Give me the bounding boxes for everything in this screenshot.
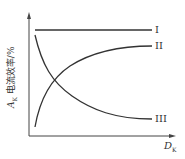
y-axis-label-main: A (6, 102, 16, 109)
y-axis-label-text: 电流效率/% (6, 47, 16, 97)
series-III-curve (35, 35, 152, 119)
y-axis-label: AK 电流效率/% (4, 47, 18, 108)
series-III-label: III (155, 114, 167, 124)
y-axis-arrow-icon (27, 12, 31, 19)
series-I-label: I (155, 25, 159, 35)
y-axis-label-sub: K (11, 97, 18, 101)
x-axis-arrow-icon (169, 134, 176, 138)
series-II-curve (35, 46, 152, 127)
x-axis-label-sub: K (172, 146, 176, 153)
series-II-label: II (155, 41, 163, 51)
x-axis-label-main: D (164, 140, 172, 151)
x-axis-label: DK (164, 140, 177, 153)
